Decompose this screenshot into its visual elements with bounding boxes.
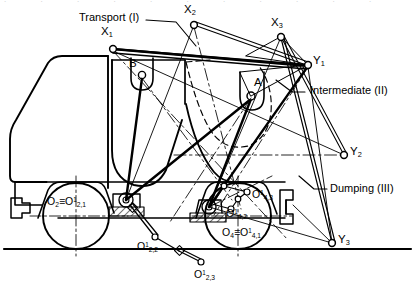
point-label-Y1-base: Y bbox=[313, 54, 321, 66]
pivot-label-O4-3: O14,3 bbox=[252, 189, 273, 202]
point-label-Y1: Y1 bbox=[313, 55, 325, 67]
leader-transport bbox=[146, 20, 196, 46]
pivot-O21-sub: 2,1 bbox=[77, 201, 86, 208]
pivot-O23-sub: 2,3 bbox=[206, 274, 215, 281]
pivot-label-O2-3: O12,3 bbox=[194, 269, 215, 282]
point-label-Y2-sub: 2 bbox=[358, 150, 362, 159]
pivot-O42-base: O bbox=[226, 207, 234, 219]
point-label-X2: X2 bbox=[184, 4, 196, 16]
pivot-O22-sub: 2,2 bbox=[149, 246, 158, 253]
pivot-O43-base: O bbox=[252, 188, 260, 200]
point-label-X3-base: X bbox=[271, 16, 279, 28]
point-label-X3-sub: 3 bbox=[279, 21, 283, 30]
pivot-O2-base: O bbox=[47, 195, 55, 207]
point-label-X3: X3 bbox=[271, 17, 283, 29]
truck-lower-skirt bbox=[15, 182, 42, 205]
pivot-O21-base: O bbox=[65, 195, 73, 207]
point-label-A-base: A bbox=[254, 76, 262, 88]
point-label-X1: X1 bbox=[101, 26, 113, 38]
joint-marker-o4-3 bbox=[244, 189, 250, 195]
pivot-O22-base: O bbox=[137, 240, 145, 252]
point-marker-Y3 bbox=[329, 240, 336, 247]
pivot-chain-o2-1b bbox=[132, 203, 158, 235]
pivot-O41-sub: 4,1 bbox=[252, 232, 261, 239]
point-marker-X2 bbox=[191, 22, 198, 29]
point-label-Y2-base: Y bbox=[350, 145, 358, 157]
point-label-Y2: Y2 bbox=[350, 146, 362, 158]
legend-dumping-label: Dumping (III) bbox=[330, 182, 394, 194]
truck-cab-body bbox=[10, 56, 108, 182]
diagram-canvas: . . . . . . . . . . . . . . . . . . . . … bbox=[0, 0, 415, 291]
point-marker-X1 bbox=[110, 46, 117, 53]
point-label-B-base: B bbox=[129, 57, 137, 69]
point-label-X2-base: X bbox=[184, 3, 192, 15]
pivot-O42-sub: 4,2 bbox=[238, 213, 247, 220]
leader-intermediate bbox=[276, 80, 305, 92]
joint-marker-o4-3b bbox=[235, 196, 241, 202]
point-marker-Y2 bbox=[341, 152, 348, 159]
hopper-transport-outline bbox=[112, 60, 182, 186]
legend-dumping: Dumping (III) bbox=[330, 183, 394, 194]
front-bumper bbox=[11, 198, 30, 218]
legend-transport: Transport (I) bbox=[79, 12, 139, 23]
point-label-Y1-sub: 1 bbox=[321, 59, 325, 68]
pivot-O23-base: O bbox=[194, 268, 202, 280]
legend-transport-label: Transport (I) bbox=[79, 11, 139, 23]
point-label-Y3-base: Y bbox=[338, 233, 346, 245]
pivot-label-O4-2: O14,2 bbox=[226, 208, 247, 221]
pivot-O41-base: O bbox=[240, 226, 248, 238]
pivot-O4-base: O bbox=[222, 226, 230, 238]
point-label-X1-base: X bbox=[101, 25, 109, 37]
joint-marker-o2-3 bbox=[198, 259, 204, 265]
point-label-Y3: Y3 bbox=[338, 234, 350, 246]
point-label-B: B bbox=[129, 58, 137, 70]
joint-marker-o4-4 bbox=[221, 183, 227, 189]
legend-intermediate-label: Intermediate (II) bbox=[310, 84, 388, 96]
point-label-X2-sub: 2 bbox=[192, 8, 196, 17]
point-label-X1-sub: 1 bbox=[109, 30, 113, 39]
point-label-Y3-sub: 3 bbox=[346, 238, 350, 247]
hopper-intermediate-outline bbox=[186, 62, 271, 147]
point-marker-X3 bbox=[278, 34, 285, 41]
legend-intermediate: Intermediate (II) bbox=[310, 85, 388, 96]
pivot-label-O2-identity: O2≡O12,1 bbox=[47, 196, 86, 209]
point-label-A: A bbox=[254, 77, 262, 89]
pivot-O43-sub: 4,3 bbox=[264, 194, 273, 201]
pivot-label-O4-identity: O4≡O14,1 bbox=[222, 227, 261, 240]
pivot-label-O2-2: O12,2 bbox=[137, 241, 158, 254]
point-marker-Y1 bbox=[305, 62, 312, 69]
joint-marker-o2-2 bbox=[152, 234, 158, 240]
